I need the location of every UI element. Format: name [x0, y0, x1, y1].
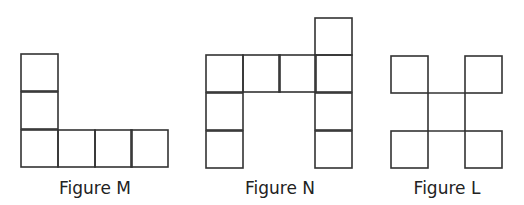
unit-square: [315, 18, 352, 55]
unit-square: [465, 131, 502, 168]
unit-square: [315, 93, 352, 130]
figures-canvas: [0, 0, 524, 205]
unit-square: [391, 131, 428, 168]
unit-square: [21, 54, 58, 91]
unit-square: [21, 130, 58, 167]
figure-m-caption: Figure M: [59, 178, 131, 198]
unit-square: [131, 130, 168, 167]
unit-square: [315, 131, 352, 168]
unit-square: [95, 130, 132, 167]
figure-n-shape: [206, 18, 352, 168]
unit-square: [391, 56, 428, 93]
unit-square: [21, 92, 58, 129]
figure-l-shape: [391, 56, 502, 168]
unit-square: [206, 55, 243, 92]
figure-m-shape: [21, 54, 168, 167]
unit-square: [243, 55, 280, 92]
figure-n-caption: Figure N: [245, 178, 315, 198]
unit-square: [465, 56, 502, 93]
unit-square: [315, 55, 352, 92]
unit-square: [279, 55, 316, 92]
figure-l-caption: Figure L: [414, 178, 481, 198]
unit-square: [206, 131, 243, 168]
unit-square: [58, 130, 95, 167]
unit-square: [206, 93, 243, 130]
